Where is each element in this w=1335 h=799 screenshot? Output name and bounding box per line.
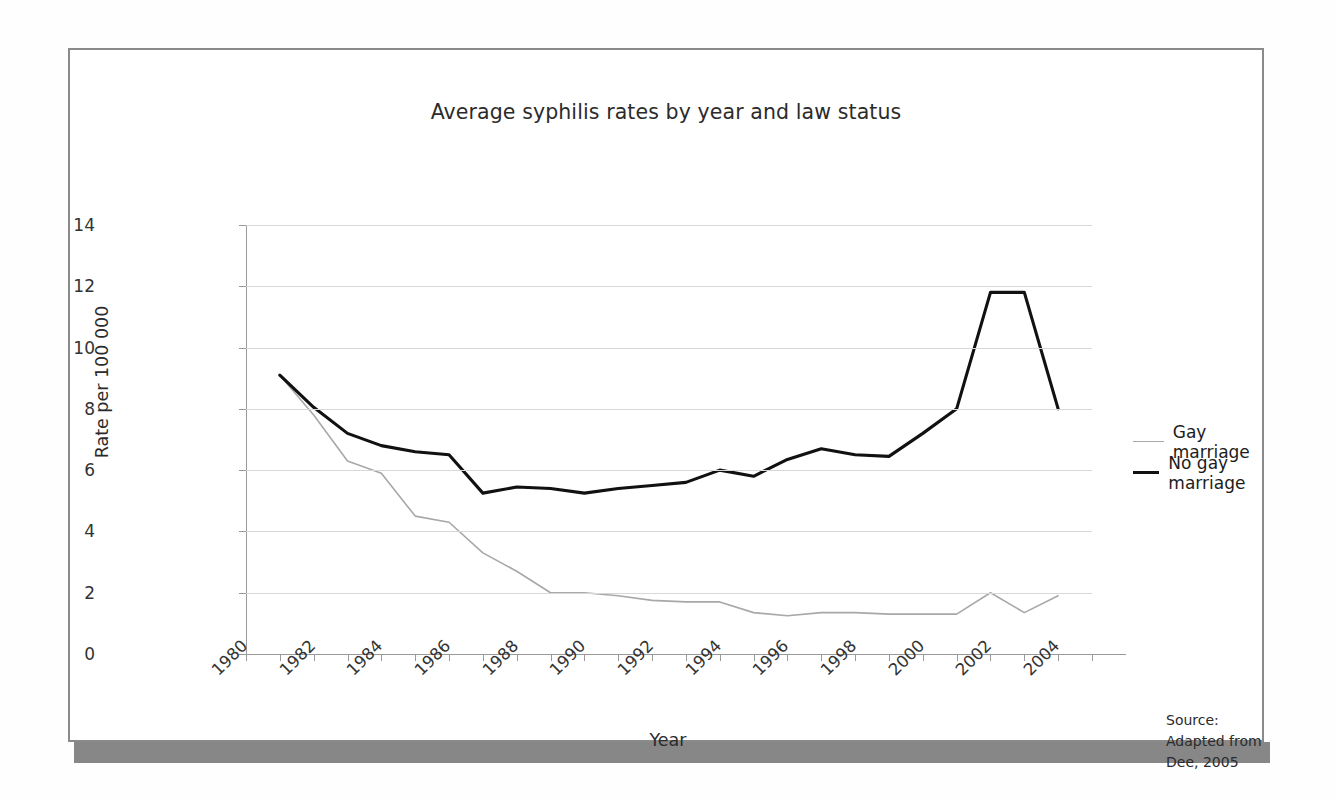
gridline xyxy=(246,286,1092,287)
x-tick-mark xyxy=(381,654,382,661)
x-axis-label: Year xyxy=(70,730,1266,750)
series-line-gay-marriage xyxy=(280,375,1058,616)
y-tick-label: 4 xyxy=(55,521,95,541)
x-tick-label: 1980 xyxy=(208,636,251,679)
x-tick-mark xyxy=(652,654,653,661)
legend-line-icon-gay-marriage xyxy=(1133,441,1164,442)
y-tick-mark xyxy=(239,531,246,532)
plot-area xyxy=(246,225,1092,654)
y-tick-label: 12 xyxy=(55,276,95,296)
y-tick-label: 2 xyxy=(55,583,95,603)
x-tick-mark xyxy=(1058,654,1059,661)
chart-title: Average syphilis rates by year and law s… xyxy=(70,100,1262,124)
x-tick-mark xyxy=(855,654,856,661)
y-tick-label: 0 xyxy=(55,644,95,664)
gridline xyxy=(246,531,1092,532)
series-line-no-gay-marriage xyxy=(280,292,1058,493)
gridline xyxy=(246,593,1092,594)
gridline xyxy=(246,225,1092,226)
y-tick-label: 8 xyxy=(55,399,95,419)
figure-page: Average syphilis rates by year and law s… xyxy=(0,0,1335,799)
x-tick-mark xyxy=(1092,654,1093,661)
gridline xyxy=(246,470,1092,471)
legend: Gay marriage No gay marriage xyxy=(1133,426,1262,488)
y-tick-label: 14 xyxy=(55,215,95,235)
x-tick-mark xyxy=(720,654,721,661)
y-tick-label: 6 xyxy=(55,460,95,480)
gridline xyxy=(246,409,1092,410)
legend-item-no-gay-marriage[interactable]: No gay marriage xyxy=(1133,457,1262,488)
y-tick-mark xyxy=(239,348,246,349)
x-tick-mark xyxy=(517,654,518,661)
figure-frame: Average syphilis rates by year and law s… xyxy=(68,48,1264,742)
legend-label-no-gay-marriage: No gay marriage xyxy=(1168,453,1262,493)
x-tick-mark xyxy=(923,654,924,661)
x-tick-mark xyxy=(449,654,450,661)
gridline xyxy=(246,348,1092,349)
legend-line-icon-no-gay-marriage xyxy=(1133,471,1159,474)
y-tick-label: 10 xyxy=(55,338,95,358)
x-tick-mark xyxy=(584,654,585,661)
y-tick-mark xyxy=(239,225,246,226)
y-axis-label: Rate per 100 000 xyxy=(92,232,112,532)
x-tick-mark xyxy=(246,654,247,661)
x-tick-mark xyxy=(787,654,788,661)
y-tick-mark xyxy=(239,409,246,410)
x-tick-mark xyxy=(990,654,991,661)
source-label: Source: xyxy=(1166,710,1262,731)
series-svg xyxy=(246,225,1092,654)
source-note: Source: Adapted from Dee, 2005 xyxy=(1166,710,1262,773)
y-tick-mark xyxy=(239,286,246,287)
y-tick-mark xyxy=(239,593,246,594)
source-text: Adapted from Dee, 2005 xyxy=(1166,731,1262,773)
y-tick-mark xyxy=(239,470,246,471)
